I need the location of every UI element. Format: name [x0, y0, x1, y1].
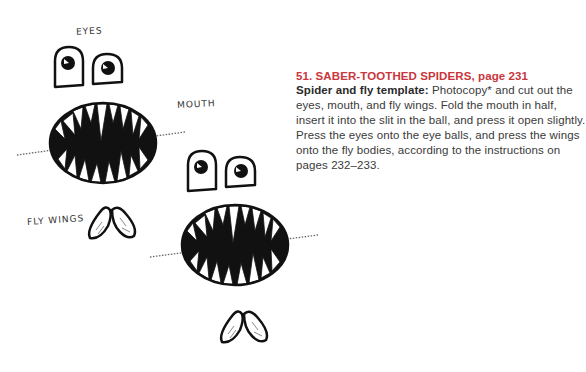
eyes-label: EYES [76, 25, 103, 36]
eye-cutout-tall-2 [188, 151, 216, 191]
mouth-label: MOUTH [177, 98, 216, 110]
instructions-block: 51. SABER-TOOTHED SPIDERS, page 231 Spid… [296, 69, 586, 173]
eye-cutout-short-2 [226, 157, 255, 187]
mouth-cutout-2 [182, 205, 288, 285]
eye-cutout-short [93, 54, 122, 84]
fly-wings-cutout-2 [221, 311, 267, 342]
fly-wings-cutout [89, 207, 135, 238]
section-body: Spider and fly template: Photocopy* and … [296, 83, 586, 173]
eye-cutout-tall [55, 47, 83, 87]
mouth-cutout [50, 103, 156, 183]
section-heading: 51. SABER-TOOTHED SPIDERS, page 231 [296, 69, 586, 83]
section-lead: Spider and fly template: [296, 84, 429, 96]
section-text: Photocopy* and cut out the eyes, mouth, … [296, 84, 585, 171]
